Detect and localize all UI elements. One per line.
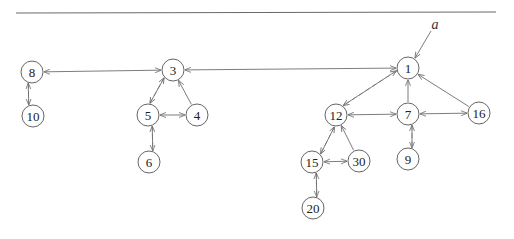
node-label: 7 — [405, 107, 412, 122]
edge-8-to-3 — [44, 70, 161, 72]
node-label: 16 — [473, 106, 487, 121]
graph-node-15: 15 — [301, 151, 323, 173]
node-label: 10 — [27, 109, 40, 124]
edge-12-to-7 — [348, 114, 396, 115]
entry-pointer-arrow — [415, 31, 431, 58]
edge-3-to-1 — [185, 68, 396, 70]
node-label: 6 — [146, 155, 153, 170]
graph-diagram: a 13810546127169153020 — [0, 0, 514, 239]
node-label: 5 — [145, 108, 152, 123]
graph-node-6: 6 — [138, 151, 160, 173]
node-label: 3 — [170, 63, 177, 78]
edge-16-to-1 — [418, 74, 469, 106]
node-label: 8 — [29, 65, 36, 80]
node-label: 20 — [307, 201, 320, 216]
edge-12-to-1 — [343, 71, 396, 106]
node-label: 9 — [405, 152, 412, 167]
graph-node-4: 4 — [186, 104, 208, 126]
edge-7-to-16 — [420, 113, 467, 114]
nodes-layer: 13810546127169153020 — [21, 57, 490, 219]
graph-node-8: 8 — [21, 61, 43, 83]
node-label: 12 — [330, 108, 343, 123]
graph-node-1: 1 — [397, 57, 419, 79]
graph-node-7: 7 — [397, 103, 419, 125]
edges-layer — [28, 68, 469, 197]
graph-node-30: 30 — [348, 150, 370, 172]
edge-15-to-12 — [321, 127, 335, 154]
edge-4-to-3 — [179, 81, 192, 105]
edge-5-to-3 — [150, 78, 164, 103]
top-rule-divider — [16, 12, 496, 13]
graph-node-3: 3 — [162, 59, 184, 81]
graph-node-16: 16 — [468, 102, 490, 124]
graph-node-10: 10 — [22, 105, 44, 127]
edge-20-to-15 — [316, 173, 317, 197]
edge-30-to-12 — [341, 126, 353, 151]
graph-node-20: 20 — [302, 197, 324, 219]
graph-node-9: 9 — [397, 148, 419, 170]
graph-node-12: 12 — [325, 104, 347, 126]
edge-6-to-5 — [152, 126, 153, 151]
node-label: 15 — [306, 155, 319, 170]
graph-node-5: 5 — [137, 104, 159, 126]
node-label: 1 — [405, 61, 412, 76]
node-label: 4 — [194, 108, 201, 123]
node-label: 30 — [353, 154, 366, 169]
entry-label-a: a — [432, 17, 439, 32]
